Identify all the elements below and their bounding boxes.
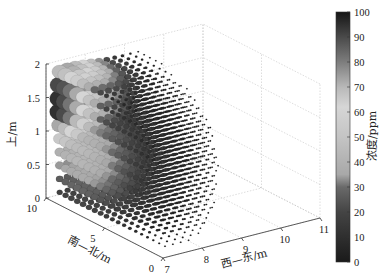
data-point xyxy=(111,118,118,124)
z-tick-label: 1 xyxy=(35,126,40,137)
data-point xyxy=(152,212,155,215)
data-point xyxy=(143,54,145,56)
data-point xyxy=(136,131,141,135)
scatter-points xyxy=(50,51,219,247)
data-point xyxy=(147,163,152,167)
data-point xyxy=(136,118,140,121)
data-point xyxy=(128,120,132,123)
data-point xyxy=(138,63,141,66)
data-point xyxy=(127,186,133,191)
data-point xyxy=(167,79,169,81)
data-point xyxy=(123,191,130,197)
data-point xyxy=(164,89,166,91)
data-point xyxy=(176,139,179,141)
data-point xyxy=(195,211,197,213)
data-point xyxy=(194,131,196,133)
data-point xyxy=(142,134,146,137)
data-point xyxy=(80,202,86,207)
data-point xyxy=(198,215,200,217)
data-point xyxy=(199,187,201,189)
data-point xyxy=(152,119,154,121)
data-point xyxy=(209,207,211,208)
data-point xyxy=(127,172,133,177)
data-point xyxy=(183,151,186,153)
data-point xyxy=(197,192,199,194)
x-axis-tick xyxy=(202,248,204,251)
data-point xyxy=(162,125,165,127)
data-point xyxy=(124,218,129,222)
data-point xyxy=(150,70,153,72)
data-point xyxy=(127,159,133,164)
data-point xyxy=(188,101,190,103)
data-point xyxy=(118,59,123,63)
data-point xyxy=(194,207,196,209)
data-point xyxy=(134,123,137,126)
data-point xyxy=(179,201,182,203)
data-point xyxy=(207,172,209,174)
data-point xyxy=(142,108,145,110)
data-point xyxy=(103,200,110,206)
data-point xyxy=(162,76,164,78)
data-point xyxy=(187,172,189,174)
data-point xyxy=(187,186,189,188)
data-point xyxy=(160,130,162,132)
data-point xyxy=(174,145,176,147)
data-point xyxy=(195,170,197,172)
data-point xyxy=(170,123,172,125)
data-point xyxy=(98,211,104,216)
data-point xyxy=(158,202,161,205)
data-point xyxy=(179,174,182,176)
data-point xyxy=(189,167,192,169)
data-point xyxy=(135,56,138,58)
data-point xyxy=(111,198,118,204)
data-point xyxy=(146,142,149,145)
data-point xyxy=(125,74,131,80)
data-point xyxy=(121,196,127,201)
x-tick-label: 10 xyxy=(280,234,291,245)
data-point xyxy=(190,109,192,111)
data-point xyxy=(115,126,121,131)
data-point xyxy=(188,96,190,98)
data-point xyxy=(127,199,133,204)
data-point xyxy=(198,143,200,145)
data-point xyxy=(203,191,205,193)
colorbar-tick-label: 20 xyxy=(354,207,365,218)
colorbar-label: 浓度/ppm xyxy=(365,110,379,161)
data-point xyxy=(184,138,186,140)
data-point xyxy=(168,128,170,130)
data-point xyxy=(178,121,180,123)
data-point xyxy=(172,150,174,152)
data-point xyxy=(159,68,161,70)
data-point xyxy=(191,162,194,164)
data-point xyxy=(206,199,208,201)
data-point xyxy=(197,219,199,221)
data-point xyxy=(158,162,161,164)
data-point xyxy=(203,182,205,184)
z-tick-label: 0 xyxy=(35,193,40,204)
data-point xyxy=(211,193,213,195)
data-point xyxy=(158,135,160,137)
data-point xyxy=(113,86,119,92)
data-point xyxy=(134,110,137,112)
data-point xyxy=(160,197,163,200)
data-point xyxy=(134,230,137,233)
data-point xyxy=(124,62,129,66)
data-point xyxy=(116,220,121,224)
data-point xyxy=(186,101,188,103)
data-point xyxy=(129,82,135,87)
z-tick-label: 2 xyxy=(35,59,40,70)
data-point xyxy=(181,183,184,185)
data-point xyxy=(174,238,176,240)
data-point xyxy=(147,150,151,154)
data-point xyxy=(207,185,209,187)
data-point xyxy=(112,56,117,60)
data-point xyxy=(172,230,174,232)
data-point xyxy=(147,62,149,64)
data-point xyxy=(147,190,152,194)
data-point xyxy=(174,82,176,84)
data-point xyxy=(203,155,205,157)
data-point xyxy=(181,169,184,171)
data-point xyxy=(158,188,161,191)
data-point xyxy=(180,85,182,87)
scatter3d-chart: 7891011051000.511.52 上/m 南—北/m 西—东/m 010… xyxy=(0,0,386,277)
